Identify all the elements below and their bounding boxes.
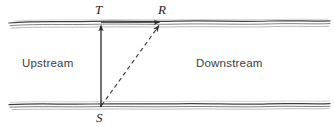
arrow-s-to-r-dashed	[102, 26, 160, 106]
point-label-t: T	[95, 2, 102, 18]
top-bank-line-third	[11, 26, 329, 28]
upstream-label: Upstream	[22, 57, 73, 69]
bottom-bank-line-wisp	[10, 101, 330, 102]
river-diagram: Upstream Downstream T R S	[0, 0, 334, 127]
point-label-r: R	[158, 2, 166, 18]
top-bank-line-second	[10, 24, 330, 26]
point-label-s: S	[96, 110, 103, 126]
point-marker-s	[100, 105, 102, 107]
bottom-bank-line-main	[9, 104, 330, 105]
top-bank-line-main	[9, 21, 330, 23]
bottom-bank-line-second	[10, 106, 330, 107]
bottom-riverbank	[9, 101, 330, 110]
top-riverbank	[9, 19, 330, 28]
bottom-bank-line-third	[12, 109, 329, 110]
downstream-label: Downstream	[196, 57, 263, 69]
